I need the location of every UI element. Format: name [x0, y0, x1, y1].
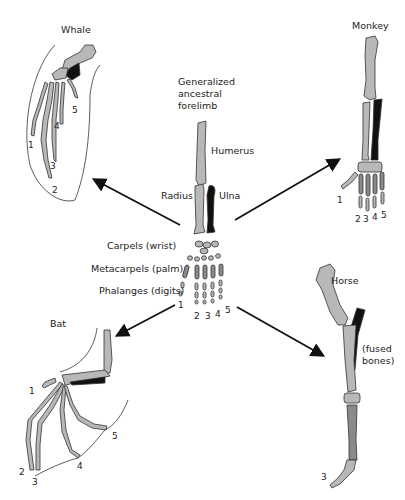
label-phalanges: Phalanges (digits) — [99, 285, 184, 297]
label-metacarpels: Metacarpels (palm) — [91, 263, 183, 275]
monkey-radius — [362, 102, 370, 160]
horse-humerus — [316, 264, 348, 325]
monkey-digit-5: 5 — [381, 210, 387, 220]
whale-digit-1: 1 — [28, 140, 34, 150]
monkey-digit-1: 1 — [337, 195, 343, 205]
radius-bone — [194, 184, 205, 234]
whale-digit-4: 4 — [54, 121, 60, 131]
center-digit-3: 3 — [205, 311, 211, 321]
label-radius: Radius — [161, 190, 193, 202]
arrow-to-monkey — [235, 160, 338, 220]
monkey-arm-illustration — [341, 36, 384, 211]
label-bat: Bat — [50, 318, 66, 330]
horse-hoof — [330, 460, 356, 488]
bat-digit-2: 2 — [19, 467, 25, 477]
center-digit-5: 5 — [225, 305, 231, 315]
bat-digit-4: 4 — [77, 461, 83, 471]
center-digit-4: 4 — [215, 309, 221, 319]
horse-leg-illustration — [316, 264, 365, 488]
arrow-to-whale — [95, 180, 180, 225]
monkey-digit-4: 4 — [372, 212, 378, 222]
arrow-to-bat — [118, 305, 175, 335]
horse-digit-3: 3 — [321, 472, 327, 482]
ancestral-forelimb-title-line2: ancestral — [178, 88, 222, 100]
label-monkey: Monkey — [352, 20, 389, 32]
diagram-canvas — [0, 0, 405, 500]
whale-radius — [52, 68, 68, 80]
horse-radius — [343, 325, 356, 392]
monkey-hand — [341, 162, 384, 211]
bat-digit-3: 3 — [32, 477, 38, 487]
horse-fused-bones-note-line1: (fused — [362, 343, 392, 355]
label-humerus: Humerus — [211, 145, 254, 157]
humerus-bone — [196, 121, 206, 186]
center-digit-1: 1 — [178, 300, 184, 310]
whale-flipper-illustration — [27, 45, 100, 201]
monkey-digit-2: 2 — [355, 214, 361, 224]
ancestral-forelimb-title-line1: Generalized — [178, 76, 235, 88]
bat-digit-5: 5 — [112, 431, 118, 441]
horse-carpals — [344, 393, 360, 403]
horse-fused-bones-note-line2: bones) — [362, 355, 394, 367]
ulna-bone — [207, 186, 215, 233]
label-whale: Whale — [61, 24, 91, 36]
whale-digit-2: 2 — [52, 185, 58, 195]
monkey-humerus — [364, 36, 378, 100]
label-carpels: Carpels (wrist) — [107, 240, 176, 252]
bat-humerus — [104, 330, 112, 373]
bat-wing-illustration — [26, 328, 128, 476]
center-digit-2: 2 — [194, 311, 200, 321]
ancestral-forelimb-title-line3: forelimb — [178, 100, 217, 112]
phalanges — [179, 280, 222, 304]
carpals — [188, 241, 221, 261]
horse-cannon-bone — [347, 405, 357, 460]
label-horse: Horse — [331, 275, 359, 287]
monkey-ulna — [371, 99, 382, 160]
monkey-digit-3: 3 — [363, 214, 369, 224]
arrow-to-horse — [237, 307, 322, 355]
label-ulna: Ulna — [219, 190, 240, 202]
metacarpals — [182, 264, 223, 279]
whale-digit-5: 5 — [72, 105, 78, 115]
bat-digit-1: 1 — [29, 386, 35, 396]
whale-digit-3: 3 — [50, 161, 56, 171]
